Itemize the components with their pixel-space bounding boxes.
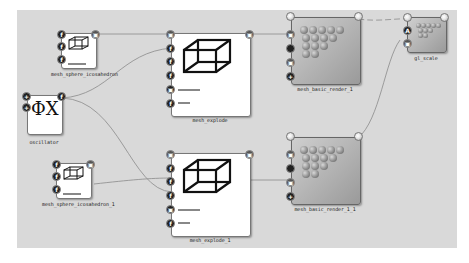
float-output-port[interactable]: f	[57, 92, 66, 101]
node-body[interactable]	[56, 163, 92, 199]
mesh-input-port[interactable]: ▣	[166, 205, 175, 214]
node-body[interactable]	[291, 17, 361, 85]
node-label: mesh_basic_render_1_1	[282, 206, 368, 212]
float-input-port[interactable]: f	[57, 30, 66, 39]
node-body[interactable]	[291, 137, 361, 205]
float-input-port[interactable]: f	[57, 42, 66, 51]
render-output-port[interactable]	[354, 12, 363, 21]
node-body[interactable]: ΦX	[27, 95, 63, 135]
float-input-port[interactable]: f	[57, 55, 66, 64]
mesh-output-port[interactable]: ▣	[91, 30, 100, 39]
node-mesh-explode[interactable]: ▣ f f f ▣ f ▣ mesh_explode	[166, 30, 254, 120]
texture-input-port[interactable]	[286, 164, 295, 173]
node-mesh-sphere-icosahedron-1[interactable]: f f f ▣ mesh_sphere_icosahedron_1	[52, 160, 94, 198]
float-input-port[interactable]: f	[166, 71, 175, 80]
node-label: mesh_explode_1	[166, 237, 254, 243]
wireframe-cube-icon	[63, 166, 85, 180]
node-oscillator[interactable]: ΦX + + f oscillator	[22, 92, 66, 136]
mesh-input-port[interactable]: ▣	[166, 85, 175, 94]
node-label: gl_scale	[403, 55, 449, 61]
wireframe-cube-icon	[182, 38, 232, 74]
render-input-port[interactable]	[286, 132, 295, 141]
add-input-port[interactable]: +	[286, 72, 295, 81]
node-body[interactable]	[171, 153, 251, 237]
float-input-port[interactable]: ▣	[403, 39, 412, 48]
mesh-output-port[interactable]: ▣	[245, 30, 254, 39]
node-body[interactable]	[407, 17, 447, 53]
float-input-port[interactable]: f	[166, 44, 175, 53]
texture-input-port[interactable]	[286, 44, 295, 53]
float-input-port[interactable]: f	[166, 191, 175, 200]
node-label: mesh_explode	[166, 117, 254, 123]
node-body[interactable]	[171, 33, 251, 117]
render-output-port[interactable]	[354, 132, 363, 141]
oscillator-icon: ΦX	[31, 98, 59, 119]
float-input-port[interactable]: f	[52, 185, 61, 194]
node-mesh-basic-render-1-1[interactable]: ▣ ▣ + mesh_basic_render_1_1	[286, 132, 364, 210]
mesh-output-port[interactable]: ▣	[86, 160, 95, 169]
node-label: mesh_sphere_icosahedron	[51, 71, 105, 77]
float-input-port[interactable]: f	[52, 172, 61, 181]
mesh-input-port[interactable]: ▣	[166, 150, 175, 159]
mesh-input-port[interactable]: ▣	[286, 150, 295, 159]
node-label: mesh_sphere_icosahedron_1	[42, 201, 104, 207]
node-gl-scale[interactable]: A ▣ gl_scale	[403, 13, 449, 59]
mesh-input-port[interactable]: ▣	[286, 30, 295, 39]
node-mesh-basic-render-1[interactable]: ▣ ▣ + mesh_basic_render_1	[286, 12, 364, 90]
mesh-output-port[interactable]: ▣	[245, 150, 254, 159]
add-input-port[interactable]: +	[22, 103, 31, 112]
node-label: mesh_basic_render_1	[286, 86, 364, 92]
node-mesh-explode-1[interactable]: ▣ f f f ▣ f ▣ mesh_explode_1	[166, 150, 254, 240]
wireframe-cube-icon	[68, 36, 90, 50]
sphere-pyramid-icon	[300, 146, 350, 186]
float-input-port[interactable]: f	[166, 164, 175, 173]
float-input-port[interactable]: f	[166, 99, 175, 108]
node-label: oscillator	[22, 139, 66, 145]
float-input-port[interactable]: f	[166, 219, 175, 228]
render-output-port[interactable]	[440, 13, 449, 22]
shader-input-port[interactable]: ▣	[286, 58, 295, 67]
render-input-port[interactable]	[403, 13, 412, 22]
render-input-port[interactable]	[286, 12, 295, 21]
sphere-pyramid-icon	[416, 23, 444, 43]
sphere-pyramid-icon	[300, 26, 350, 66]
float-input-port[interactable]: f	[166, 177, 175, 186]
node-mesh-sphere-icosahedron[interactable]: f f f ▣ mesh_sphere_icosahedron	[57, 30, 99, 68]
float-input-port[interactable]: f	[52, 160, 61, 169]
axis-input-port[interactable]: A	[403, 26, 412, 35]
add-input-port[interactable]: +	[286, 192, 295, 201]
shader-input-port[interactable]: ▣	[286, 178, 295, 187]
mesh-input-port[interactable]: ▣	[166, 30, 175, 39]
wireframe-cube-icon	[182, 158, 232, 194]
node-body[interactable]	[61, 33, 97, 69]
add-input-port[interactable]: +	[22, 92, 31, 101]
float-input-port[interactable]: f	[166, 57, 175, 66]
